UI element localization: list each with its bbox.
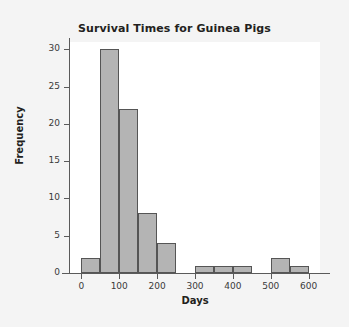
y-axis-tick [64, 273, 69, 274]
histogram-figure: Survival Times for Guinea Pigs 010020030… [0, 0, 349, 327]
x-axis-title: Days [70, 295, 320, 306]
histogram-bar [119, 109, 138, 273]
histogram-bar [81, 258, 100, 273]
y-axis-tick-label: 20 [36, 118, 60, 128]
y-axis-tick [64, 161, 69, 162]
y-axis-tick [64, 49, 69, 50]
x-axis-tick-label: 400 [218, 281, 248, 291]
histogram-bar [138, 213, 157, 273]
y-axis-tick-label: 15 [36, 155, 60, 165]
x-axis-tick-label: 200 [142, 281, 172, 291]
chart-title: Survival Times for Guinea Pigs [0, 22, 349, 35]
x-axis-tick-label: 0 [66, 281, 96, 291]
x-axis-tick [81, 274, 82, 279]
x-axis-tick [233, 274, 234, 279]
y-axis-title: Frequency [14, 91, 25, 181]
x-axis-tick-label: 300 [180, 281, 210, 291]
y-axis-line [69, 38, 70, 274]
histogram-bar [100, 49, 119, 273]
x-axis-tick-label: 100 [104, 281, 134, 291]
y-axis-tick-label: 25 [36, 81, 60, 91]
plot-inner [70, 42, 320, 273]
bars-layer [70, 42, 320, 273]
histogram-bar [195, 266, 214, 273]
y-axis-tick [64, 87, 69, 88]
y-axis-tick-label: 5 [36, 230, 60, 240]
y-axis-tick-label: 30 [36, 43, 60, 53]
y-axis-tick [64, 198, 69, 199]
histogram-bar [157, 243, 176, 273]
x-axis-tick [271, 274, 272, 279]
y-axis-tick [64, 236, 69, 237]
x-axis-tick [157, 274, 158, 279]
x-axis-tick-label: 600 [294, 281, 324, 291]
x-axis-line [62, 273, 330, 274]
y-axis-tick-label: 0 [36, 267, 60, 277]
x-axis-tick [309, 274, 310, 279]
x-axis-tick-label: 500 [256, 281, 286, 291]
histogram-bar [290, 266, 309, 273]
plot-area [70, 42, 320, 273]
histogram-bar [233, 266, 252, 273]
y-axis-tick-label: 10 [36, 192, 60, 202]
y-axis-tick [64, 124, 69, 125]
histogram-bar [214, 266, 233, 273]
x-axis-tick [195, 274, 196, 279]
histogram-bar [271, 258, 290, 273]
x-axis-tick [119, 274, 120, 279]
